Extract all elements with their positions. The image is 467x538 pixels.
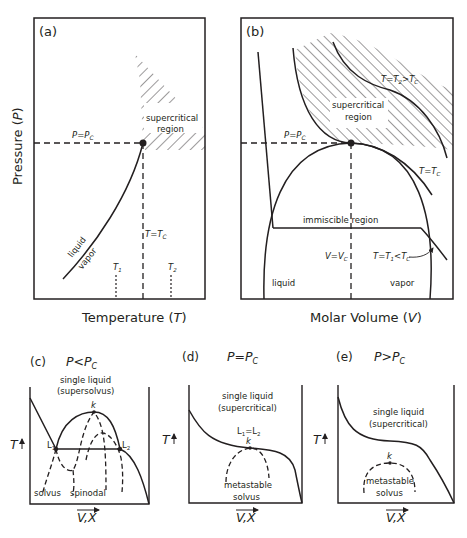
k-label-d: k [246, 436, 252, 446]
supersolvus-label: (supersolvus) [57, 386, 114, 396]
critical-point-b [348, 140, 355, 147]
liquid-label-b: liquid [272, 278, 295, 288]
tc-isotherm-label: T=TC [419, 166, 441, 177]
vx-axis-label-e: V,X [386, 510, 406, 525]
panel-d: (d) P=PC single liquid (supercritical) L… [162, 349, 302, 525]
t1-pointer-arrow [409, 248, 433, 257]
vx-axis-label-c: V,X [77, 510, 97, 525]
metastable-label-d: metastable [224, 480, 272, 490]
metastable-label-e: metastable [366, 476, 414, 486]
l1-label: L1 [47, 440, 55, 451]
molar-volume-axis-label: Molar Volume (V) [310, 310, 422, 325]
l2-label: L2 [122, 440, 130, 451]
panel-e: (e) P>PC single liquid (supercritical) k… [313, 349, 454, 525]
solvus-label-e: solvus [376, 488, 403, 498]
t-eq-tc-label: T=TC [145, 229, 168, 240]
supercritical-label-d: (supercritical) [218, 403, 277, 413]
solvus-label-d: solvus [233, 492, 260, 502]
t1-isotherm-label: T=T1<TC [373, 251, 410, 262]
panel-c-condition: P<PC [66, 354, 98, 371]
supercritical-label-b: supercritical [332, 100, 384, 110]
spinodal-curve [56, 412, 106, 490]
panel-c: (c) P<PC single liquid (supersolvus) k L… [10, 354, 149, 525]
t1-label: T1 [113, 262, 122, 273]
supercritical-label-e: (supercritical) [369, 419, 428, 429]
panel-b-label: (b) [246, 24, 264, 39]
single-liquid-label-e: single liquid [373, 407, 424, 417]
panel-c-label: (c) [30, 355, 46, 369]
vapor-label-b: vapor [390, 278, 415, 288]
k-label-c: k [91, 400, 97, 410]
solvus-dome [56, 412, 120, 449]
single-liquid-label-d: single liquid [222, 391, 273, 401]
panel-a-frame [34, 18, 205, 299]
k-point-d [248, 446, 252, 450]
critical-point-a [140, 140, 147, 147]
vx-axis-label-d: V,X [236, 510, 256, 525]
t-axis-label-e: T [313, 432, 322, 447]
supercritical-label: supercritical [146, 113, 198, 123]
spinodal-label: spinodal [70, 488, 106, 498]
metastable-loop [73, 433, 123, 495]
supercritical-hatch [135, 54, 205, 150]
p-eq-pc-label-b: P=PC [284, 130, 306, 141]
k-label-e: k [387, 451, 393, 461]
panel-e-label: (e) [336, 350, 353, 364]
p-eq-pc-label: P=PC [72, 130, 94, 141]
t-axis-label-d: T [162, 432, 171, 447]
panel-d-condition: P=PC [227, 349, 259, 366]
immiscible-region-label: immiscible region [303, 215, 378, 225]
solvus-label: solvus [34, 488, 61, 498]
supercritical-hatch-b [295, 33, 453, 150]
pressure-axis-label: Pressure (P) [10, 107, 25, 185]
metastable-solvus-d [226, 448, 269, 482]
panel-e-condition: P>PC [374, 349, 406, 366]
liquid-vapor-curve [63, 143, 143, 279]
temperature-axis-label: Temperature (T) [81, 310, 187, 325]
liquid-isotherm-steep [258, 52, 273, 228]
region-label: region [157, 124, 184, 134]
t-axis-label-c: T [10, 437, 19, 452]
v-eq-vc-label: V=VC [325, 251, 348, 262]
panel-a: (a) supercritical region P=PC T=TC liqui… [10, 18, 205, 325]
panel-b: (b) supercritical region P=PC T=T2>TC T=… [241, 18, 453, 325]
panel-d-label: (d) [182, 350, 199, 364]
panel-a-label: (a) [39, 24, 57, 39]
k-point-c [92, 410, 96, 414]
k-point-e [388, 461, 392, 465]
t2-label: T2 [168, 262, 177, 273]
single-liquid-label-c: single liquid [60, 375, 111, 385]
region-label-b: region [345, 112, 372, 122]
